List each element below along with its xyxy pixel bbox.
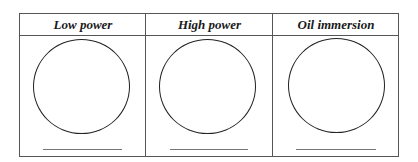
header-low-power: Low power bbox=[20, 14, 146, 35]
label-line-low-power bbox=[43, 149, 122, 150]
column-divider bbox=[145, 14, 146, 156]
field-of-view-circle-high-power bbox=[159, 39, 256, 134]
table-header-row: Low power High power Oil immersion bbox=[20, 14, 398, 36]
header-high-power: High power bbox=[146, 14, 273, 35]
label-line-oil-immersion bbox=[296, 149, 376, 150]
field-of-view-circle-low-power bbox=[33, 39, 130, 134]
column-divider bbox=[272, 14, 273, 156]
field-of-view-circle-oil-immersion bbox=[288, 38, 385, 133]
label-line-high-power bbox=[170, 149, 248, 150]
header-oil-immersion: Oil immersion bbox=[273, 14, 399, 35]
